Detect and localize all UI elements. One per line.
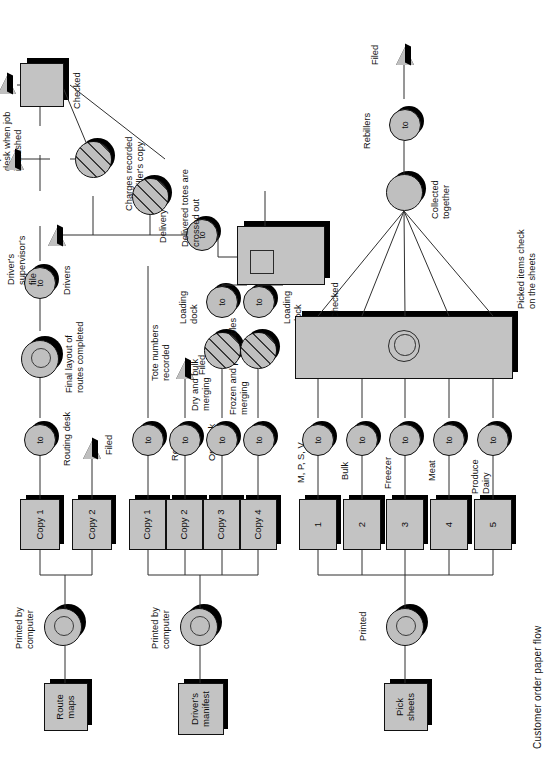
label-dry-bulk-merging: Dry and bulk merging [190, 359, 212, 411]
label-pick-freezer: Freezer [383, 457, 394, 489]
op-pick-produce-dairy-symbol: to [478, 425, 508, 455]
op-rebillers-symbol: to [390, 110, 420, 140]
file-flag-rebillers [396, 43, 414, 65]
file-flag-route-copy-2 [83, 437, 101, 459]
file-flag-file [6, 148, 24, 170]
print-op-drivers-manifest-label: Printed by computer [150, 569, 172, 649]
label-filed-supervisor: Filed at driver's supervisor's desk when… [0, 1, 25, 171]
file-flag-drivers-supervisor [48, 224, 66, 246]
diagram-rotation-wrapper: Route maps Printed by computer Copy 1 Co… [0, 0, 557, 771]
op-loading-dock-b: to [243, 286, 275, 318]
op-pick-freezer-symbol: to [390, 425, 420, 455]
diagram-title: Customer order paper flow [532, 626, 544, 749]
op-pick-meat: to [433, 424, 465, 456]
doc-manifest-copy-1: Copy 1 [129, 499, 166, 550]
hatched-op-charges-recorded [75, 141, 112, 178]
doc-pick-2: 2 [343, 499, 381, 550]
op-final-layout [21, 340, 59, 378]
label-checked-dock: Checked [330, 282, 341, 319]
op-pick-meat-symbol: to [434, 425, 464, 455]
label-pick-bulk: Bulk [340, 462, 351, 480]
op-op-desk: to [169, 424, 201, 456]
doc-route-copy-1: Copy 1 [20, 499, 60, 550]
op-routing-desk-symbol: to [25, 425, 55, 455]
source-doc-route-maps: Route maps [44, 683, 88, 731]
source-doc-drivers-manifest-label: Driver's manifest [179, 684, 223, 734]
doc-manifest-copy-2: Copy 2 [166, 499, 203, 550]
op-frozen-perishables-merging: to [243, 424, 275, 456]
op-routing-desk: to [24, 424, 56, 456]
op-dry-bulk-merging: to [206, 424, 238, 456]
hatched-op-delivered-totes [132, 178, 169, 215]
doc-route-copy-2-label: Copy 2 [73, 500, 111, 549]
panel-checked-top [20, 63, 64, 107]
doc-pick-5: 5 [474, 499, 512, 550]
label-collected-together: Collected together [430, 180, 452, 219]
doc-pick-4-label: 4 [431, 500, 467, 549]
panel-checked-loading-dock [237, 226, 325, 285]
op-pick-mpsv-symbol: to [303, 425, 333, 455]
label-picked-items-check: Picked items check on the sheets [516, 229, 538, 309]
print-op-route-maps-label: Printed by computer [14, 569, 36, 649]
panel-inner-square [250, 250, 274, 274]
doc-manifest-copy-4-label: Copy 4 [241, 500, 276, 549]
source-doc-route-maps-label: Route maps [45, 684, 87, 730]
source-doc-drivers-manifest: Driver's manifest [178, 683, 224, 735]
op-frozen-perishables-merging-symbol: to [244, 425, 274, 455]
print-op-pick-sheets [386, 608, 424, 646]
doc-manifest-copy-2-label: Copy 2 [167, 500, 202, 549]
op-rebillers: to [389, 109, 421, 141]
op-op-desk-symbol: to [170, 425, 200, 455]
op-rebiller: to [132, 424, 164, 456]
hatched-op-loading-dock-b [240, 332, 277, 369]
label-routing-desk: Routing desk [62, 412, 73, 466]
print-op-pick-sheets-label: Printed [358, 612, 369, 641]
label-delivered-totes: Delivered totes are crossed out [180, 169, 202, 247]
doc-route-copy-2: Copy 2 [72, 499, 112, 550]
doc-manifest-copy-4: Copy 4 [240, 499, 277, 550]
op-loading-dock-a-symbol: to [207, 287, 237, 317]
hatched-op-tote-numbers [204, 332, 241, 369]
op-dry-bulk-merging-symbol: to [207, 425, 237, 455]
doc-manifest-copy-1-label: Copy 1 [130, 500, 165, 549]
label-route-copy-2-filed: Filed [104, 435, 115, 455]
diagram-stage: Route maps Printed by computer Copy 1 Co… [0, 0, 557, 771]
label-tote-numbers-recorded: Tote numbers recorded [150, 325, 172, 381]
label-rebillers-filed: Filed [370, 45, 381, 65]
label-pick-mpsv: M, P, S, V [296, 442, 307, 483]
doc-pick-3-label: 3 [387, 500, 423, 549]
op-rebiller-symbol: to [133, 425, 163, 455]
op-pick-freezer: to [389, 424, 421, 456]
op-loading-dock-b-symbol: to [244, 287, 274, 317]
doc-manifest-copy-3: Copy 3 [203, 499, 240, 550]
label-loading-dock-a: Loading dock [178, 291, 200, 324]
doc-pick-1-label: 1 [300, 500, 336, 549]
doc-route-copy-1-label: Copy 1 [21, 500, 59, 549]
label-drivers: Drivers [62, 266, 73, 295]
doc-pick-4: 4 [430, 499, 468, 550]
doc-pick-2-label: 2 [344, 500, 380, 549]
doc-manifest-copy-3-label: Copy 3 [204, 500, 239, 549]
op-pick-bulk-symbol: to [347, 425, 377, 455]
doc-pick-3: 3 [386, 499, 424, 550]
source-doc-pick-sheets-label: Pick sheets [385, 684, 427, 730]
op-pick-bulk: to [346, 424, 378, 456]
print-op-drivers-manifest [180, 608, 218, 646]
op-collected-together [386, 174, 423, 211]
label-rebillers: Rebillers [362, 113, 373, 149]
print-op-route-maps [44, 608, 82, 646]
doc-pick-1: 1 [299, 499, 337, 550]
label-pick-produce-dairy: Produce Dairy [470, 459, 492, 494]
label-pick-meat: Meat [427, 460, 438, 481]
op-pick-produce-dairy: to [477, 424, 509, 456]
doc-pick-5-label: 5 [475, 500, 511, 549]
label-drivers-supervisor-file: Driver's supervisor's file [6, 175, 39, 285]
label-delivery: Delivery [158, 209, 169, 243]
panel-picked-items-check [295, 316, 513, 379]
op-loading-dock-a: to [206, 286, 238, 318]
label-final-layout: Final layout of routes completed [64, 322, 86, 393]
diagram-canvas: Route maps Printed by computer Copy 1 Co… [0, 0, 557, 771]
panel-inner-ring [388, 330, 420, 362]
source-doc-pick-sheets: Pick sheets [384, 683, 428, 731]
label-checked-top: Checked [72, 72, 83, 109]
